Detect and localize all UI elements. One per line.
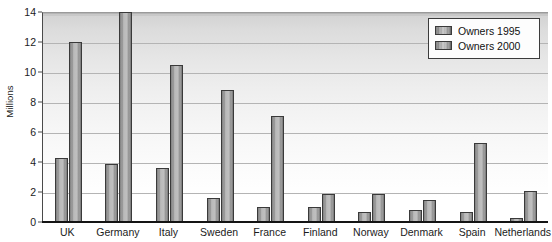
bar [69, 42, 82, 222]
bar [423, 200, 436, 223]
bar [105, 164, 118, 223]
bar [372, 194, 385, 223]
bar [257, 207, 270, 222]
legend-item-owners-2000: Owners 2000 [435, 38, 533, 53]
bar-chart: Millions 02468101214 UKGermanyItalySwede… [0, 0, 552, 242]
bar [524, 191, 537, 223]
cropped-title-sliver [60, 0, 360, 2]
legend-swatch-icon [435, 26, 452, 35]
y-tick-label: 6 [2, 126, 36, 138]
y-tick-label: 14 [2, 6, 36, 18]
x-tick-label: Spain [459, 226, 486, 238]
bar [207, 198, 220, 222]
y-tick-label: 10 [2, 66, 36, 78]
x-tick-label: Italy [159, 226, 178, 238]
y-tick-label: 12 [2, 36, 36, 48]
legend-label: Owners 2000 [458, 40, 520, 52]
x-tick-label: Finland [303, 226, 337, 238]
bar [271, 116, 284, 223]
x-tick-label: Germany [96, 226, 139, 238]
x-axis-baseline [42, 221, 548, 223]
x-axis-category-labels: UKGermanyItalySwedenFranceFinlandNorwayD… [42, 224, 548, 242]
legend-label: Owners 1995 [458, 25, 520, 37]
x-tick-label: Netherlands [494, 226, 551, 238]
x-tick-label: UK [60, 226, 75, 238]
legend-item-owners-1995: Owners 1995 [435, 23, 533, 38]
bar [474, 143, 487, 223]
y-tick-label: 0 [2, 216, 36, 228]
x-tick-label: Sweden [200, 226, 238, 238]
y-axis-tick-labels: 02468101214 [0, 0, 36, 242]
bar [308, 207, 321, 222]
x-tick-label: Norway [353, 226, 389, 238]
chart-legend: Owners 1995 Owners 2000 [428, 18, 540, 59]
bar [156, 168, 169, 222]
bar [322, 194, 335, 223]
y-tick-label: 4 [2, 156, 36, 168]
bar [221, 90, 234, 222]
bar [170, 65, 183, 223]
bar [119, 12, 132, 222]
y-tick-label: 2 [2, 186, 36, 198]
x-tick-label: Denmark [400, 226, 443, 238]
legend-swatch-icon [435, 41, 452, 50]
x-tick-label: France [253, 226, 286, 238]
bar [55, 158, 68, 223]
y-tick-label: 8 [2, 96, 36, 108]
